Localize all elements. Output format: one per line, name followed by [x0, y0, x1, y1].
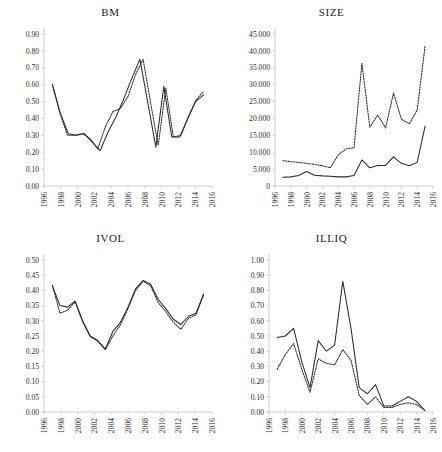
x-axis-tick-label: 2014	[413, 192, 422, 207]
x-axis-tick-label: 2004	[334, 192, 343, 207]
x-axis-tick-label: 2008	[363, 418, 372, 433]
chart-ivol: 0.000.050.100.150.200.250.300.350.400.45…	[0, 226, 221, 452]
x-axis-tick-label: 2010	[380, 418, 389, 433]
chart-illiq: 0.000.100.200.300.400.500.600.700.800.90…	[221, 226, 442, 452]
chart-bm: 0.000.100.200.300.400.500.600.700.800.90…	[0, 0, 221, 226]
x-axis-tick-label: 2008	[141, 418, 150, 433]
x-axis-tick-label: 2012	[174, 192, 183, 207]
x-axis-tick-label: 2014	[413, 418, 422, 433]
x-axis-tick-label: 1996	[265, 418, 274, 433]
y-axis-tick-label: 5.000	[253, 165, 270, 174]
y-axis-tick-label: 0.10	[251, 393, 264, 402]
y-axis-tick-label: 10.000	[249, 148, 270, 157]
x-axis-tick-label: 2010	[158, 418, 167, 433]
x-axis-tick-label: 1996	[40, 418, 49, 433]
y-axis-tick-label: 0.25	[26, 332, 39, 341]
x-axis-tick-label: 2006	[124, 418, 133, 433]
x-axis-tick-label: 2014	[191, 192, 200, 207]
x-axis-tick-label: 2000	[74, 192, 83, 207]
y-axis-tick-label: 0.35	[26, 301, 39, 310]
x-axis-tick-label: 1998	[57, 192, 66, 207]
y-axis-tick-label: 0.30	[26, 131, 39, 140]
data-series-solid	[277, 281, 425, 410]
x-axis-tick-label: 2016	[429, 192, 438, 207]
x-axis-tick-label: 2014	[191, 418, 200, 433]
y-axis-tick-label: 0.00	[26, 182, 39, 191]
x-axis-tick-label: 2008	[141, 192, 150, 207]
x-axis-tick-label: 1996	[271, 192, 280, 207]
y-axis-tick-label: 0.50	[26, 97, 39, 106]
x-axis-tick-label: 2012	[396, 418, 405, 433]
chart-grid: BM 0.000.100.200.300.400.500.600.700.800…	[0, 0, 442, 452]
y-axis-tick-label: 0.90	[251, 271, 264, 280]
y-axis-tick-label: 15.000	[249, 131, 270, 140]
panel-size: SIZE 05.00010.00015.00020.00025.00030.00…	[221, 0, 442, 226]
y-axis-tick-label: 45.000	[249, 30, 270, 39]
x-axis-tick-label: 2000	[298, 418, 307, 433]
y-axis-tick-label: 0.05	[26, 393, 39, 402]
y-axis-tick-label: 35.000	[249, 63, 270, 72]
x-axis-tick-label: 2004	[107, 418, 116, 433]
y-axis-tick-label: 0.20	[26, 347, 39, 356]
y-axis-tick-label: 30.000	[249, 80, 270, 89]
y-axis-tick-label: 40.000	[249, 47, 270, 56]
x-axis-tick-label: 2002	[90, 192, 99, 207]
y-axis-tick-label: 1.00	[251, 256, 264, 265]
x-axis-tick-label: 2002	[314, 418, 323, 433]
x-axis-tick-label: 2010	[158, 192, 167, 207]
y-axis-tick-label: 0.40	[26, 286, 39, 295]
y-axis-tick-label: 0.40	[26, 114, 39, 123]
x-axis-tick-label: 2010	[382, 192, 391, 207]
x-axis-tick-label: 2016	[429, 418, 438, 433]
x-axis-tick-label: 2008	[366, 192, 375, 207]
y-axis-tick-label: 0.90	[26, 30, 39, 39]
y-axis-tick-label: 0.10	[26, 165, 39, 174]
y-axis-tick-label: 0.20	[26, 148, 39, 157]
y-axis-tick-label: 0.20	[251, 377, 264, 386]
x-axis-tick-label: 2004	[331, 418, 340, 433]
x-axis-tick-label: 2004	[107, 192, 116, 207]
data-series-solid	[283, 126, 425, 177]
x-axis-tick-label: 2006	[350, 192, 359, 207]
y-axis-tick-label: 0.80	[26, 47, 39, 56]
y-axis-tick-label: 0.60	[251, 317, 264, 326]
y-axis-tick-label: 0.30	[26, 317, 39, 326]
panel-ivol: IVOL 0.000.050.100.150.200.250.300.350.4…	[0, 226, 221, 452]
x-axis-tick-label: 2006	[347, 418, 356, 433]
panel-illiq: ILLIQ 0.000.100.200.300.400.500.600.700.…	[221, 226, 442, 452]
x-axis-tick-label: 1998	[57, 418, 66, 433]
y-axis-tick-label: 0.00	[26, 408, 39, 417]
y-axis-tick-label: 25.000	[249, 97, 270, 106]
x-axis-tick-label: 2002	[318, 192, 327, 207]
x-axis-tick-label: 1998	[287, 192, 296, 207]
y-axis-tick-label: 0.50	[26, 256, 39, 265]
y-axis-tick-label: 0.80	[251, 286, 264, 295]
data-series-dotted	[283, 46, 425, 168]
x-axis-tick-label: 2012	[397, 192, 406, 207]
y-axis-tick-label: 0.60	[26, 80, 39, 89]
y-axis-tick-label: 0.10	[26, 377, 39, 386]
x-axis-tick-label: 2002	[90, 418, 99, 433]
x-axis-tick-label: 2012	[174, 418, 183, 433]
y-axis-tick-label: 0.30	[251, 362, 264, 371]
x-axis-tick-label: 1996	[40, 192, 49, 207]
x-axis-tick-label: 2016	[208, 192, 217, 207]
data-series-solid	[52, 59, 203, 150]
y-axis-tick-label: 20.000	[249, 114, 270, 123]
y-axis-tick-label: 0.50	[251, 332, 264, 341]
y-axis-tick-label: 0.15	[26, 362, 39, 371]
y-axis-tick-label: 0.00	[251, 408, 264, 417]
x-axis-tick-label: 2000	[303, 192, 312, 207]
y-axis-tick-label: 0.45	[26, 271, 39, 280]
x-axis-tick-label: 2006	[124, 192, 133, 207]
data-series-dotted	[52, 59, 203, 149]
panel-bm: BM 0.000.100.200.300.400.500.600.700.800…	[0, 0, 221, 226]
y-axis-tick-label: 0.40	[251, 347, 264, 356]
x-axis-tick-label: 1998	[281, 418, 290, 433]
y-axis-tick-label: 0.70	[26, 63, 39, 72]
x-axis-tick-label: 2016	[208, 418, 217, 433]
chart-size: 05.00010.00015.00020.00025.00030.00035.0…	[221, 0, 442, 226]
data-series-solid	[52, 280, 203, 349]
x-axis-tick-label: 2000	[74, 418, 83, 433]
y-axis-tick-label: 0	[266, 182, 270, 191]
